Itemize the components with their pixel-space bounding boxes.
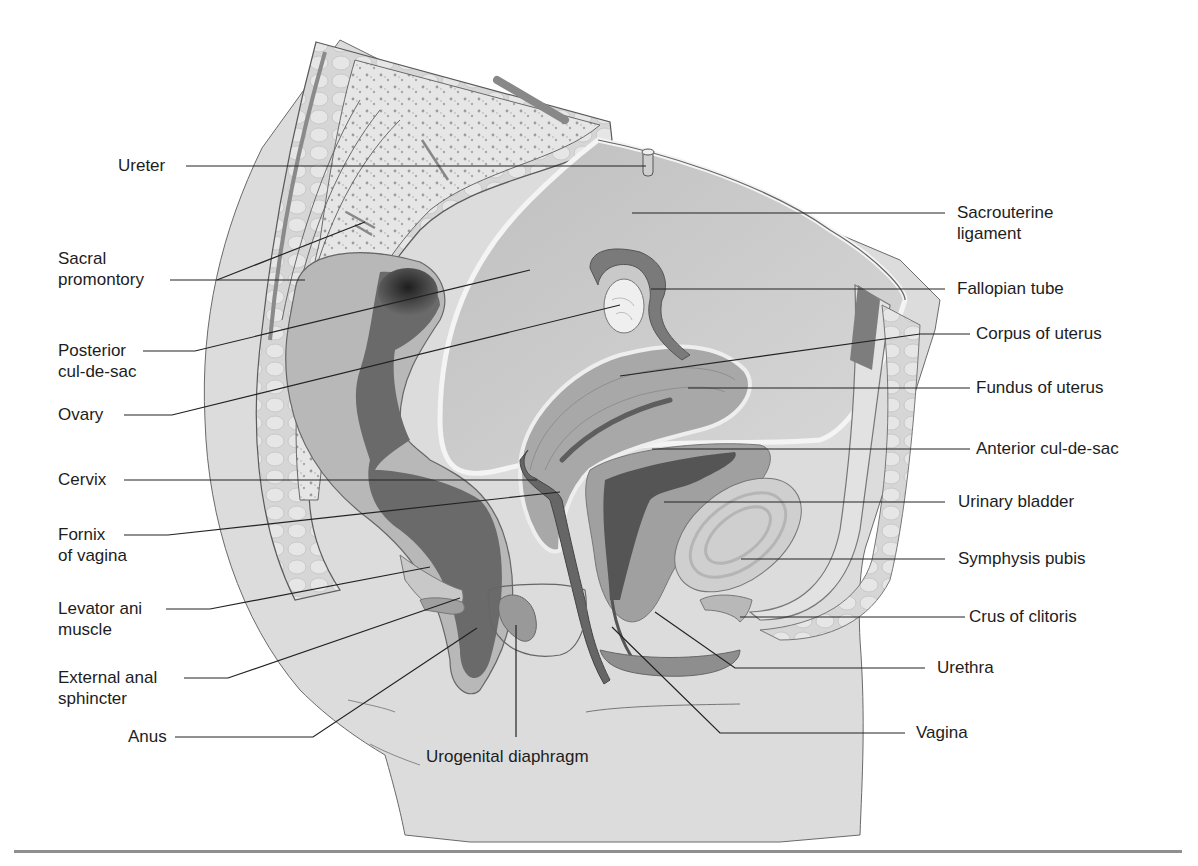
label-line-2: ligament (957, 224, 1021, 243)
label-levator-ani-muscle: Levator ani muscle (58, 598, 142, 640)
label-symphysis-pubis: Symphysis pubis (958, 548, 1086, 569)
label-line-1: Sacral (58, 249, 106, 268)
female-pelvis-sagittal-diagram (0, 0, 1198, 866)
label-line-2: cul-de-sac (58, 362, 136, 381)
label-crus-of-clitoris: Crus of clitoris (969, 606, 1077, 627)
label-external-anal-sphincter: External anal sphincter (58, 667, 157, 709)
label-ovary: Ovary (58, 404, 103, 425)
label-line-2: promontory (58, 270, 144, 289)
label-line-2: of vagina (58, 546, 127, 565)
ovary-shape (604, 279, 644, 333)
label-line-1: Levator ani (58, 599, 142, 618)
label-vagina: Vagina (916, 722, 968, 743)
label-posterior-cul-de-sac: Posterior cul-de-sac (58, 340, 136, 382)
label-fornix-of-vagina: Fornix of vagina (58, 524, 127, 566)
label-line-1: Sacrouterine (957, 203, 1053, 222)
label-ureter: Ureter (118, 155, 165, 176)
label-line-1: External anal (58, 668, 157, 687)
label-cervix: Cervix (58, 469, 106, 490)
label-anterior-cul-de-sac: Anterior cul-de-sac (976, 438, 1119, 459)
label-fundus-of-uterus: Fundus of uterus (976, 377, 1104, 398)
label-anus: Anus (128, 726, 167, 747)
label-line-2: sphincter (58, 689, 127, 708)
label-urinary-bladder: Urinary bladder (958, 491, 1074, 512)
label-fallopian-tube: Fallopian tube (957, 278, 1064, 299)
label-line-1: Fornix (58, 525, 105, 544)
label-urethra: Urethra (937, 657, 994, 678)
label-corpus-of-uterus: Corpus of uterus (976, 323, 1102, 344)
bottom-divider (14, 850, 1182, 853)
label-line-1: Posterior (58, 341, 126, 360)
label-urogenital-diaphragm: Urogenital diaphragm (426, 746, 589, 767)
label-sacrouterine-ligament: Sacrouterine ligament (957, 202, 1053, 244)
label-sacral-promontory: Sacral promontory (58, 248, 144, 290)
label-line-2: muscle (58, 620, 112, 639)
